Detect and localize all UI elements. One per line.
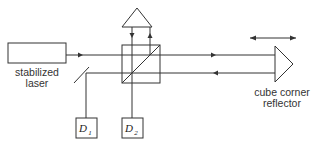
- motion-double-arrow-icon: [250, 36, 296, 41]
- interferometer-diagram: stabilized laser D 1 D: [0, 0, 314, 146]
- d2-subscript: 2: [134, 129, 138, 137]
- beam-arrow-icon: [130, 33, 135, 38]
- d2-label: D: [124, 122, 133, 134]
- pickoff-mirror: [74, 67, 89, 118]
- beam-arrow-icon: [213, 71, 218, 76]
- d1-label: D: [78, 122, 87, 134]
- detector-d2: D 2: [122, 118, 143, 138]
- laser-label-line2: laser: [26, 77, 49, 89]
- return-beam: [86, 71, 275, 76]
- beam-splitter-cube: [122, 45, 160, 83]
- d1-subscript: 1: [88, 129, 92, 137]
- outgoing-beam: [66, 53, 275, 58]
- reflector-label-line2: reflector: [263, 97, 301, 109]
- beam-arrow-icon: [78, 53, 83, 58]
- beam-arrow-icon: [211, 53, 216, 58]
- detector-d1: D 1: [76, 118, 97, 138]
- beam-arrow-icon: [148, 33, 153, 38]
- stabilized-laser: stabilized laser: [8, 43, 66, 89]
